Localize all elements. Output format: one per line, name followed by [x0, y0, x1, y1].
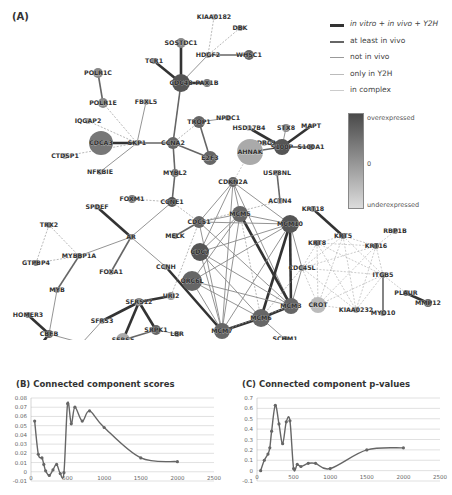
network-node[interactable]: MYO10	[371, 309, 396, 316]
node-label: MYBL2	[163, 169, 187, 176]
network-node[interactable]: FOXM1	[120, 195, 145, 203]
y-tick-label: 0.1	[244, 457, 253, 463]
network-node[interactable]: KIAA0232	[339, 306, 374, 313]
network-node[interactable]: TAF9	[73, 339, 90, 340]
network-node[interactable]: SFRS3	[91, 317, 114, 324]
network-node[interactable]: MELK	[165, 232, 186, 239]
network-node[interactable]: CCNE1	[160, 197, 183, 207]
network-node[interactable]: ACTN4	[268, 197, 292, 204]
node-label: IQGAP2	[75, 117, 102, 124]
network-node[interactable]: CTDSP1	[51, 152, 79, 159]
node-label: CDC7	[191, 248, 210, 255]
network-node[interactable]: USP8NL	[263, 169, 291, 176]
network-node[interactable]: SOSTDC1	[165, 38, 198, 48]
data-point	[33, 419, 36, 422]
network-node[interactable]: KRT5	[334, 232, 352, 239]
y-tick-label: 0.4	[244, 426, 253, 432]
x-tick-label: 1500	[360, 474, 374, 480]
network-node[interactable]: CDC45L	[288, 264, 315, 271]
network-node[interactable]: HOMER3	[13, 311, 43, 318]
x-tick-label: 2500	[207, 475, 221, 481]
node-label: MYB	[49, 286, 65, 293]
node-label: S100P	[271, 143, 294, 150]
network-node[interactable]: LBR	[170, 330, 184, 337]
network-node[interactable]: IQGAP2	[75, 117, 102, 124]
network-node[interactable]: SRPK1	[144, 325, 167, 335]
network-node[interactable]: SCHM1	[272, 335, 297, 340]
legend-swatch	[330, 74, 344, 75]
network-node[interactable]: KRT18	[302, 205, 325, 212]
network-node[interactable]: NFKBIE	[87, 168, 113, 175]
network-node[interactable]: SFRS5	[112, 333, 135, 340]
network-node[interactable]: TRX2	[40, 221, 58, 228]
network-node[interactable]: TROP1	[187, 116, 211, 128]
network-node[interactable]: POLR1C	[84, 68, 112, 78]
network-node[interactable]: SFRS12	[126, 298, 153, 306]
network-node[interactable]: CBFB	[40, 330, 59, 338]
network-edge	[208, 17, 214, 55]
network-node[interactable]: MYBL2	[163, 169, 187, 177]
network-node[interactable]: KRT16	[365, 242, 388, 249]
network-node[interactable]: HDGF2	[196, 51, 220, 58]
network-node[interactable]: URI2	[163, 292, 180, 300]
network-node[interactable]: SPDEF	[86, 203, 109, 210]
node-label: URI2	[163, 292, 180, 299]
network-edge	[57, 256, 79, 290]
network-node[interactable]: CDKN2A	[218, 177, 247, 187]
y-tick-label: -0.01	[13, 478, 27, 484]
node-label: SKP1	[128, 139, 146, 146]
network-node[interactable]: MYB	[49, 286, 65, 293]
network-node[interactable]: KIAA0182	[197, 13, 232, 20]
node-label: CCNA2	[161, 139, 185, 146]
network-node[interactable]: POLR1E	[89, 98, 117, 108]
network-node[interactable]: TCR1	[145, 57, 163, 64]
network-node[interactable]: MCM3	[280, 298, 302, 314]
network-node[interactable]: CCNH	[156, 263, 176, 270]
network-node[interactable]: MCM5	[229, 206, 251, 222]
node-label: TRX2	[40, 221, 58, 228]
node-label: CCNE1	[160, 198, 183, 205]
network-node[interactable]: WHSC1	[236, 50, 262, 60]
node-label: ACTN4	[268, 197, 292, 204]
network-node[interactable]: MCM7	[211, 323, 233, 339]
network-node[interactable]: FOXA1	[99, 268, 123, 275]
network-node[interactable]: CDCA3	[89, 131, 113, 155]
network-node[interactable]: MAPT	[301, 122, 322, 129]
network-node[interactable]: STX8	[277, 124, 295, 132]
network-node[interactable]: E2F3	[201, 151, 218, 165]
network-node[interactable]: ITGB5	[373, 271, 394, 278]
network-node[interactable]: MYBBP1A	[62, 252, 96, 259]
node-label: S100A1	[298, 143, 325, 150]
network-node[interactable]: KRT8	[308, 239, 326, 246]
network-node[interactable]: DBK	[233, 24, 249, 31]
network-node[interactable]: HSD17B4	[233, 124, 267, 131]
y-tick-label: 0.03	[15, 441, 28, 447]
network-node[interactable]: PAX1B	[196, 79, 219, 87]
network-node[interactable]: AR	[126, 233, 136, 240]
data-line	[35, 402, 178, 478]
network-node[interactable]: SKP1	[128, 139, 146, 146]
network-node[interactable]: PLAUR	[394, 289, 417, 296]
node-label: CDC45L	[288, 264, 315, 271]
node-label: PLAUR	[394, 289, 417, 296]
network-node[interactable]: GTPBP4	[22, 259, 50, 266]
network-node[interactable]: RBP1B	[383, 227, 407, 234]
data-point	[66, 402, 69, 405]
data-point	[274, 404, 277, 407]
data-point	[44, 469, 47, 472]
network-node[interactable]: CROT	[308, 297, 328, 313]
network-node[interactable]: FBXL5	[135, 98, 157, 105]
legend-item: in complex	[330, 84, 452, 101]
legend-item: in vitro + in vivo + Y2H	[330, 18, 452, 35]
node-label: NFKBIE	[87, 168, 113, 175]
node-label: HOMER3	[13, 311, 43, 318]
network-node[interactable]: NPDC1	[216, 114, 240, 121]
network-node[interactable]: MMP12	[415, 299, 441, 307]
y-tick-label: -0.1	[242, 478, 253, 484]
network-edge	[222, 182, 233, 331]
panel-a-label: (A)	[12, 11, 29, 22]
network-node[interactable]: S100A1	[298, 143, 325, 150]
y-tick-label: 0.08	[15, 395, 28, 401]
y-tick-label: 0.07	[15, 404, 28, 410]
network-node[interactable]: MCM6	[250, 309, 272, 327]
